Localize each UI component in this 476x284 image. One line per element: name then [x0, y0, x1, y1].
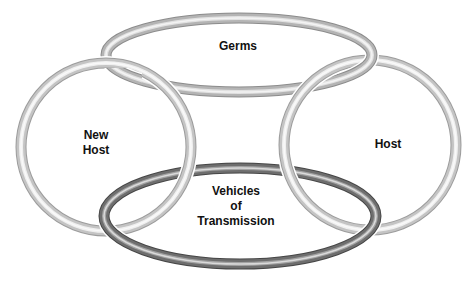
label-host-line-1: Host: [375, 137, 402, 152]
label-new-host-line-2: Host: [83, 143, 110, 158]
label-vehicles-line-1: Vehicles: [197, 184, 274, 199]
label-new-host-line-1: New: [83, 128, 110, 143]
label-host: Host: [375, 137, 402, 152]
label-new-host: New Host: [83, 128, 110, 158]
label-germs: Germs: [219, 39, 257, 54]
ring-germs: [106, 18, 372, 92]
label-vehicles-line-2: of: [197, 199, 274, 214]
label-vehicles-line-3: Transmission: [197, 214, 274, 229]
label-vehicles-of-transmission: Vehicles of Transmission: [197, 184, 274, 229]
label-germs-line-1: Germs: [219, 39, 257, 54]
